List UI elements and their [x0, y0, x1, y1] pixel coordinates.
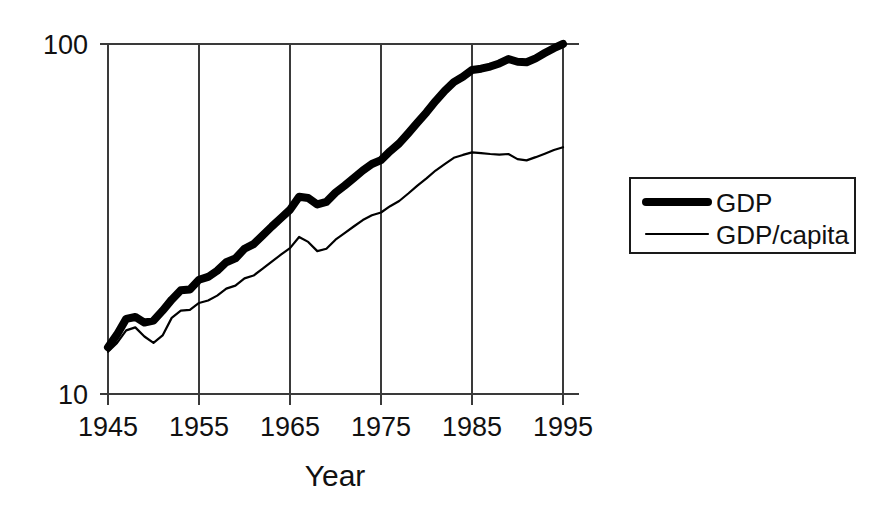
y-tick-label-10: 10 — [58, 380, 88, 410]
chart-figure: 10010 194519551965197519851995 Year GDP … — [0, 0, 890, 518]
x-tick-label-1975: 1975 — [351, 412, 411, 442]
gridlines-group — [108, 44, 563, 394]
legend: GDP GDP/capita — [630, 178, 855, 253]
x-tick-label-1955: 1955 — [169, 412, 229, 442]
series-group — [108, 44, 563, 352]
x-axis-title: Year — [305, 459, 366, 492]
legend-label-gdp-capita: GDP/capita — [716, 220, 849, 250]
y-tick-label-100: 100 — [43, 30, 88, 60]
x-tick-label-1965: 1965 — [260, 412, 320, 442]
chart-canvas: 10010 194519551965197519851995 Year GDP … — [0, 0, 890, 518]
series-line-gdp-capita — [108, 147, 563, 352]
x-tick-label-1995: 1995 — [533, 412, 593, 442]
x-tick-labels-group: 194519551965197519851995 — [78, 412, 593, 442]
y-tick-labels-group: 10010 — [43, 30, 88, 410]
axes-group — [100, 44, 579, 394]
legend-label-gdp: GDP — [716, 188, 772, 218]
x-tick-label-1985: 1985 — [442, 412, 502, 442]
x-tick-label-1945: 1945 — [78, 412, 138, 442]
tickmarks-group — [100, 44, 563, 405]
series-line-gdp — [108, 44, 563, 347]
